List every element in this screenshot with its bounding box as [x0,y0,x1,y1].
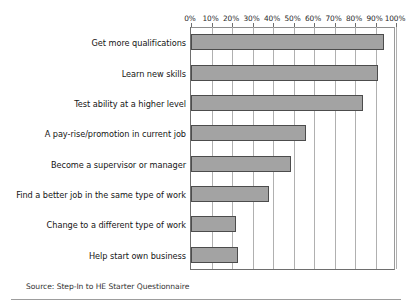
x-tick-label: 70% [325,14,341,23]
x-axis-tickmark [376,23,377,27]
gridline [253,27,254,269]
x-tick-label: 90% [366,14,382,23]
gridline [232,27,233,269]
x-axis-tickmark [294,23,295,27]
bar [191,34,384,50]
chart-title [46,0,376,3]
x-tick-label: 40% [264,14,280,23]
chart-figure: 0%10%20%30%40%50%60%70%80%90%100% Get mo… [0,0,412,305]
x-axis-tickmark [355,23,356,27]
x-axis-tickmark [273,23,274,27]
x-tick-label: 0% [184,14,196,23]
category-label: Help start own business [0,251,186,261]
bar [191,247,238,263]
y-axis-category-labels: Get more qualificationsLearn new skillsT… [0,27,186,270]
bar [191,216,236,232]
x-tick-label: 80% [346,14,362,23]
category-label: Become a supervisor or manager [0,160,186,170]
category-label: Change to a different type of work [0,220,186,230]
x-tick-label: 100% [385,14,406,23]
category-label: Get more qualifications [0,38,186,48]
x-axis-tickmark [191,23,192,27]
x-tick-label: 60% [305,14,321,23]
bar [191,186,269,202]
gridline [314,27,315,269]
x-axis-tickmark [232,23,233,27]
x-axis-tickmark [314,23,315,27]
x-axis-tickmark [335,23,336,27]
category-label: Learn new skills [0,69,186,79]
x-axis-tick-labels: 0%10%20%30%40%50%60%70%80%90%100% [190,14,395,25]
bar [191,95,363,111]
bar [191,65,378,81]
x-tick-label: 10% [202,14,218,23]
gridline [376,27,377,269]
gridline [212,27,213,269]
gridline [355,27,356,269]
bar [191,125,306,141]
x-tick-label: 30% [243,14,259,23]
x-axis-tickmark [396,23,397,27]
category-label: Find a better job in the same type of wo… [0,190,186,200]
gridline [273,27,274,269]
x-tick-label: 20% [223,14,239,23]
bar [191,156,291,172]
plot-area [190,27,395,270]
source-note: Source: Step-In to HE Starter Questionna… [26,282,189,291]
category-label: Test ability at a higher level [0,99,186,109]
gridline [396,27,397,269]
category-label: A pay-rise/promotion in current job [0,129,186,139]
x-tick-label: 50% [284,14,300,23]
gridline [335,27,336,269]
x-axis-tickmark [253,23,254,27]
bottom-divider [11,299,401,300]
x-axis-tickmark [212,23,213,27]
plot-top-border [191,27,394,28]
gridline [294,27,295,269]
